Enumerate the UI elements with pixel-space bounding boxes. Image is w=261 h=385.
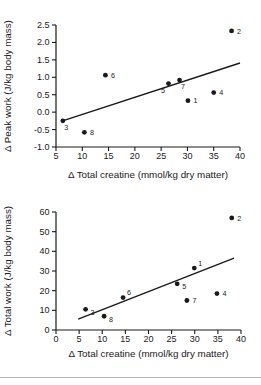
y-tick-label: 20 [39, 286, 49, 296]
x-tick-label: 20 [143, 334, 153, 344]
data-point [166, 81, 171, 86]
x-tick-label: 35 [209, 151, 219, 161]
x-tick-label: 40 [236, 334, 246, 344]
data-point-label: 7 [192, 296, 196, 305]
y-tick-label: 2.0 [37, 37, 50, 47]
data-point [83, 307, 88, 312]
peak-work-scatter-chart: 5101520253035402.52.01.51.00.50.0-0.5-1.… [0, 0, 261, 193]
x-tick-label: 30 [190, 334, 200, 344]
data-point [229, 29, 234, 34]
y-tick-label: -0.5 [34, 125, 50, 135]
y-tick-label: 40 [39, 246, 49, 256]
x-tick-label: 5 [77, 334, 82, 344]
y-tick-label: 1.0 [37, 72, 50, 82]
data-point [175, 281, 180, 286]
x-tick-label: 15 [104, 151, 114, 161]
data-point-label: 8 [90, 128, 94, 137]
y-tick-label: 60 [39, 207, 49, 217]
total-work-scatter-chart: 0510152025303540605040302010012345678Δ T… [0, 193, 261, 385]
data-point [215, 291, 220, 296]
data-point-label: 4 [219, 88, 223, 97]
x-tick-label: 25 [167, 334, 177, 344]
y-tick-label: 0 [44, 325, 49, 335]
data-point-label: 3 [91, 308, 95, 317]
data-point-label: 5 [182, 282, 186, 291]
y-tick-label: 2.5 [37, 20, 50, 30]
x-tick-label: 25 [156, 151, 166, 161]
data-point-label: 6 [127, 288, 131, 297]
x-tick-label: 35 [213, 334, 223, 344]
data-point-label: 5 [161, 86, 165, 95]
data-point-label: 1 [193, 96, 197, 105]
data-point-label: 1 [198, 259, 202, 268]
x-tick-label: 40 [235, 151, 245, 161]
x-tick-label: 10 [97, 334, 107, 344]
y-tick-label: 0.0 [37, 107, 50, 117]
y-tick-label: -1.0 [34, 142, 50, 152]
y-tick-label: 50 [39, 227, 49, 237]
y-tick-label: 1.5 [37, 55, 50, 65]
x-tick-label: 5 [53, 151, 58, 161]
y-tick-label: 30 [39, 266, 49, 276]
trend-line [78, 258, 234, 319]
data-point [103, 73, 108, 78]
data-point-label: 7 [181, 82, 185, 91]
figure-page: 5101520253035402.52.01.51.00.50.0-0.5-1.… [0, 0, 261, 385]
page-divider-rule [0, 377, 261, 378]
x-tick-label: 0 [53, 334, 58, 344]
data-point [192, 266, 197, 271]
data-point [186, 98, 191, 103]
data-point-label: 2 [237, 214, 241, 223]
data-point [82, 130, 87, 135]
x-tick-label: 10 [77, 151, 87, 161]
y-axis-title: Δ Total work (J/kg body mass) [2, 206, 13, 336]
data-point [184, 298, 189, 303]
peak-work-chart-canvas: 5101520253035402.52.01.51.00.50.0-0.5-1.… [0, 0, 261, 193]
data-point [211, 90, 216, 95]
data-point [121, 295, 126, 300]
y-axis-title: Δ Peak work (J/kg body mass) [2, 20, 13, 152]
x-tick-label: 15 [120, 334, 130, 344]
total-work-chart-canvas: 0510152025303540605040302010012345678Δ T… [0, 193, 261, 385]
x-axis-title: Δ Total creatine (mmol/kg dry matter) [68, 169, 228, 180]
data-point-label: 6 [111, 71, 115, 80]
data-point [102, 314, 107, 319]
y-tick-label: 10 [39, 305, 49, 315]
x-axis-title: Δ Total creatine (mmol/kg dry matter) [68, 348, 228, 359]
data-point-label: 8 [109, 315, 113, 324]
y-tick-label: 0.5 [37, 90, 50, 100]
data-point-label: 3 [64, 123, 68, 132]
data-point [229, 216, 234, 221]
x-tick-label: 30 [182, 151, 192, 161]
data-point-label: 4 [222, 289, 226, 298]
data-point-label: 2 [237, 27, 241, 36]
x-tick-label: 20 [130, 151, 140, 161]
